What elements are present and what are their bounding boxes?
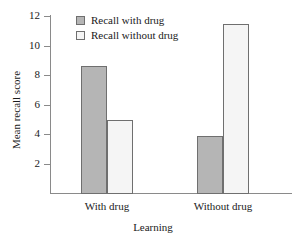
y-tick-label-wrap-12: 12 xyxy=(0,10,40,11)
bar-without-drug-recall-without-drug xyxy=(223,24,249,194)
chart-figure: Recall with drug Recall without drug 246… xyxy=(0,0,306,241)
bar-with-drug-recall-with-drug xyxy=(81,66,107,194)
x-label-without-drug: Without drug xyxy=(173,200,273,212)
x-axis-title: Learning xyxy=(0,221,306,233)
plot-area xyxy=(50,16,286,194)
bar-without-drug-recall-with-drug xyxy=(197,136,223,194)
x-label-with-drug: With drug xyxy=(57,200,157,212)
y-tick-label-wrap-10: 10 xyxy=(0,40,40,41)
y-tick-label-12: 12 xyxy=(6,10,40,21)
bar-with-drug-recall-without-drug xyxy=(107,120,133,194)
y-axis-title: Mean recall score xyxy=(10,45,22,175)
